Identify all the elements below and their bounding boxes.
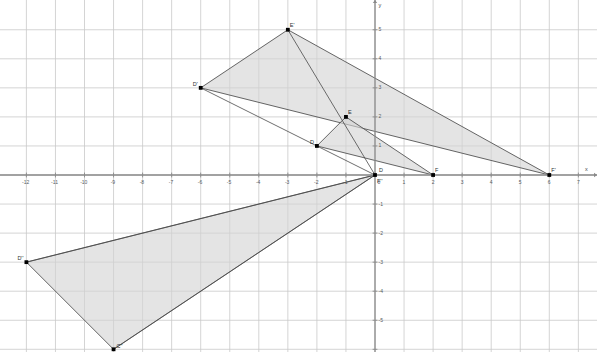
x-axis-tick-label: -11 xyxy=(51,179,58,185)
vertex-point[interactable] xyxy=(112,347,116,351)
point-label-Dp: D' xyxy=(193,81,198,87)
x-axis-tick-label: -10 xyxy=(80,179,87,185)
x-axis-tick-label: 5 xyxy=(519,179,522,185)
y-axis-tick-label: -2 xyxy=(379,230,383,236)
x-axis-tick-label: -7 xyxy=(169,179,173,185)
x-axis-tick-label: -6 xyxy=(198,179,202,185)
x-axis-tick-label: 7 xyxy=(577,179,580,185)
x-axis-label: x xyxy=(585,166,588,172)
x-axis-tick-label: -2 xyxy=(314,179,318,185)
point-label-Ep: E' xyxy=(290,22,295,28)
x-axis-tick-label: 3 xyxy=(461,179,464,185)
y-axis-tick-label: -3 xyxy=(379,259,383,265)
x-axis-tick-label: -4 xyxy=(256,179,260,185)
point-label-D: D xyxy=(310,139,314,145)
geometry-plot-canvas: -12-11-10-9-8-7-6-5-4-3-2-1123456754321-… xyxy=(0,0,597,352)
point-label-Cpp: C'' xyxy=(117,343,123,349)
x-axis-tick-label: -1 xyxy=(343,179,347,185)
x-axis-tick-label: 2 xyxy=(432,179,435,185)
vertex-point[interactable] xyxy=(344,115,348,119)
vertex-point[interactable] xyxy=(315,144,319,148)
x-axis-tick-label: -8 xyxy=(140,179,144,185)
y-axis-tick-label: -4 xyxy=(379,288,383,294)
point-label-Fpp: F'' xyxy=(377,178,382,184)
coordinate-plane-svg xyxy=(0,0,597,352)
point-label-Dpp: D'' xyxy=(17,255,23,261)
point-label-E: E xyxy=(348,109,352,115)
vertex-point[interactable] xyxy=(431,173,435,177)
x-axis-tick-label: 6 xyxy=(548,179,551,185)
vertex-point[interactable] xyxy=(373,173,377,177)
y-axis-arrow xyxy=(373,0,377,3)
y-axis-tick-label: -5 xyxy=(379,317,383,323)
y-axis-label: y xyxy=(379,2,382,8)
x-axis-tick-label: 1 xyxy=(403,179,406,185)
y-axis-tick-label: 1 xyxy=(379,142,382,148)
x-axis-tick-label: -3 xyxy=(285,179,289,185)
vertex-point[interactable] xyxy=(199,86,203,90)
y-axis-tick-label: -1 xyxy=(379,201,383,207)
x-axis-tick-label: 4 xyxy=(490,179,493,185)
x-axis-tick-label: -5 xyxy=(227,179,231,185)
point-label-Fp: F' xyxy=(551,167,555,173)
vertex-point[interactable] xyxy=(286,28,290,32)
point-label-D: D xyxy=(379,167,383,173)
point-label-F: F xyxy=(435,167,438,173)
vertex-point[interactable] xyxy=(547,173,551,177)
y-axis-tick-label: 3 xyxy=(379,84,382,90)
y-axis-tick-label: 2 xyxy=(379,113,382,119)
y-axis-tick-label: 4 xyxy=(379,55,382,61)
x-axis-tick-label: -12 xyxy=(22,179,29,185)
x-axis-tick-label: -9 xyxy=(111,179,115,185)
vertex-point[interactable] xyxy=(25,260,29,264)
y-axis-tick-label: 5 xyxy=(379,26,382,32)
